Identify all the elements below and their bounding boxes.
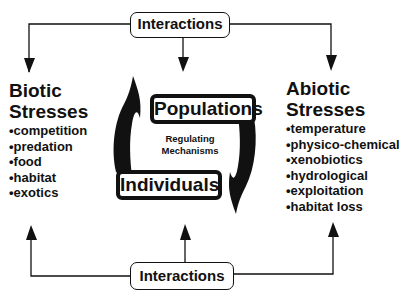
interactions-label: Interactions (137, 15, 222, 32)
biotic-stresses-heading: Biotic Stresses (9, 80, 88, 122)
list-item: xenobiotics (286, 152, 400, 168)
list-item: competition (9, 123, 87, 139)
list-item: hydrological (286, 168, 400, 184)
biotic-stresses-list: competition predation food habitat exoti… (9, 123, 87, 201)
list-item: temperature (286, 121, 400, 137)
interactions-box-bottom: Interactions (130, 262, 234, 290)
list-item: food (9, 154, 87, 170)
abiotic-stresses-list: temperature physico-chemical xenobiotics… (286, 121, 400, 215)
arrowheads-down (24, 55, 337, 73)
list-item: predation (9, 139, 87, 155)
regulating-mechanisms-label: Regulating Mechanisms (150, 133, 230, 157)
list-item: habitat loss (286, 199, 400, 215)
individuals-box: Individuals (116, 170, 222, 200)
list-item: habitat (9, 170, 87, 186)
cycle-arrow-up-left (114, 76, 141, 178)
abiotic-stresses-heading: Abiotic Stresses (286, 78, 365, 120)
list-item: exploitation (286, 183, 400, 199)
interactions-label: Interactions (139, 267, 224, 284)
list-item: exotics (9, 185, 87, 201)
cycle-arrow-down-right (229, 112, 256, 214)
arrowheads-up (26, 222, 339, 240)
populations-box: Populations (150, 94, 256, 124)
list-item: physico-chemical (286, 137, 400, 153)
interactions-box-top: Interactions (130, 12, 230, 38)
